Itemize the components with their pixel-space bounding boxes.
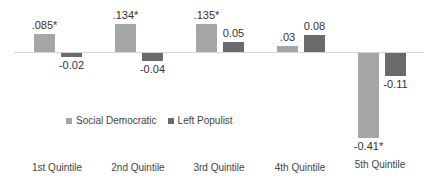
value-label: .085* (25, 19, 65, 31)
bar-left-populist (142, 53, 163, 61)
bar-social-democratic (34, 34, 55, 52)
category-label: 3rd Quintile (179, 162, 259, 173)
value-label: 0.08 (295, 20, 335, 32)
category-label: 1st Quintile (17, 162, 97, 173)
value-label: .03 (268, 31, 308, 43)
category-label: 5th Quintile (340, 159, 420, 170)
legend: Social Democratic Left Populist (66, 115, 244, 126)
value-label: 0.05 (214, 27, 254, 39)
bar-left-populist (223, 42, 244, 52)
value-label: .135* (187, 9, 227, 21)
bar-left-populist (385, 53, 406, 76)
value-label: -0.02 (52, 59, 92, 71)
bar-social-democratic (358, 53, 379, 138)
category-label: 4th Quintile (260, 162, 340, 173)
bar-left-populist (61, 53, 82, 57)
grouped-bar-chart: .085*.134*.135*.03-0.41*-0.02-0.040.050.… (0, 0, 437, 186)
value-label: .134* (106, 9, 146, 21)
value-label: -0.04 (133, 63, 173, 75)
legend-swatch-left-populist (168, 118, 174, 124)
category-label: 2nd Quintile (98, 162, 178, 173)
legend-label: Left Populist (178, 115, 233, 126)
bar-left-populist (304, 35, 325, 52)
legend-swatch-social-democratic (66, 118, 72, 124)
legend-label: Social Democratic (76, 115, 157, 126)
legend-item-social-democratic: Social Democratic (66, 115, 157, 126)
value-label: -0.11 (376, 78, 416, 90)
bar-social-democratic (277, 46, 298, 52)
legend-item-left-populist: Left Populist (168, 115, 233, 126)
bar-social-democratic (115, 24, 136, 52)
value-label: -0.41* (349, 140, 389, 152)
